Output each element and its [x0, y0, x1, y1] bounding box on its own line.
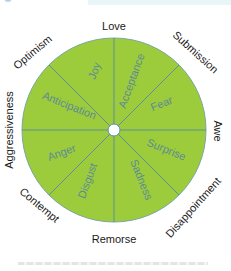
dyad-remorse: Remorse: [92, 233, 137, 245]
footer-caption-fragment: [18, 262, 208, 265]
dyad-aggressiveness: Aggressiveness: [3, 91, 15, 169]
dyad-awe: Awe: [212, 120, 224, 141]
dyad-optimism: Optimism: [11, 32, 54, 71]
dyad-love: Love: [102, 20, 126, 32]
center-dot: [108, 124, 120, 136]
emotion-wheel: Joy Acceptance Fear Surprise Sadness Dis…: [0, 0, 231, 271]
